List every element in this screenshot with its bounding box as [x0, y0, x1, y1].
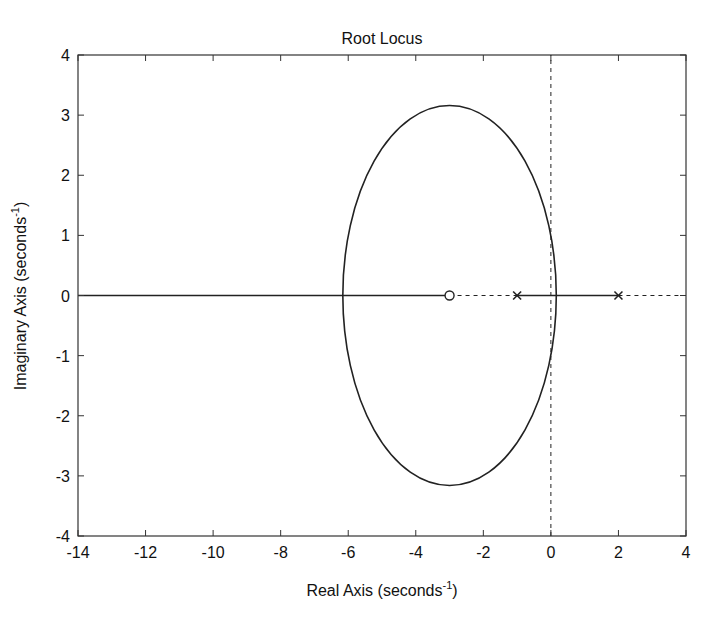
x-tick-label: 4	[682, 544, 691, 561]
root-locus-chart: Root Locus -14-12-10-8-6-4-2024-4-3-2-10…	[0, 0, 717, 636]
y-tick-label: 2	[61, 167, 70, 184]
x-tick-label: -14	[66, 544, 89, 561]
x-tick-label: 0	[546, 544, 555, 561]
plot-data	[78, 55, 686, 536]
x-axis-label: Real Axis (seconds-1)	[306, 579, 457, 599]
x-tick-label: -12	[134, 544, 157, 561]
x-tick-label: -2	[476, 544, 490, 561]
x-tick-label: -10	[202, 544, 225, 561]
y-tick-label: -1	[56, 348, 70, 365]
chart-title: Root Locus	[342, 30, 423, 47]
y-tick-label: -4	[56, 528, 70, 545]
zero-marker	[445, 291, 454, 300]
y-tick-label: -2	[56, 408, 70, 425]
y-tick-label: 3	[61, 107, 70, 124]
y-tick-label: -3	[56, 468, 70, 485]
x-tick-label: 2	[614, 544, 623, 561]
axes: -14-12-10-8-6-4-2024-4-3-2-101234	[56, 47, 691, 561]
x-tick-label: -4	[409, 544, 423, 561]
x-tick-label: -8	[274, 544, 288, 561]
y-tick-label: 4	[61, 47, 70, 64]
y-tick-label: 0	[61, 288, 70, 305]
x-tick-label: -6	[341, 544, 355, 561]
y-axis-label: Imaginary Axis (seconds-1)	[9, 202, 29, 391]
y-tick-label: 1	[61, 227, 70, 244]
